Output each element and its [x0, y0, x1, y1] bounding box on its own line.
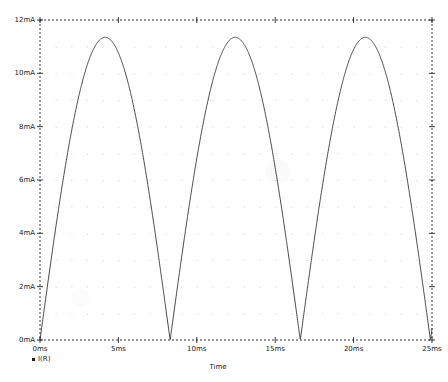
- x-axis-title: Time: [180, 363, 256, 371]
- legend[interactable]: I(R): [32, 355, 50, 363]
- square-marker-icon: [32, 358, 35, 361]
- legend-label-i-r: I(R): [38, 355, 50, 363]
- x-tick-label-20ms: 20ms: [336, 345, 372, 353]
- y-tick-label-8mA: 8mA: [2, 123, 35, 131]
- tick-marks: [37, 17, 435, 343]
- y-tick-label-0mA: 0mA: [2, 336, 35, 344]
- series-i-r-trace: [40, 37, 432, 340]
- y-tick-label-10mA: 10mA: [2, 69, 35, 77]
- y-tick-label-6mA: 6mA: [2, 176, 35, 184]
- grid-dots: [56, 47, 418, 315]
- x-tick-label-15ms: 15ms: [257, 345, 293, 353]
- x-tick-label-0ms: 0ms: [22, 345, 58, 353]
- y-tick-label-4mA: 4mA: [2, 229, 35, 237]
- x-tick-label-5ms: 5ms: [100, 345, 136, 353]
- x-tick-label-25ms: 25ms: [414, 345, 448, 353]
- y-tick-label-12mA: 12mA: [2, 16, 35, 24]
- axis-frame: [40, 20, 432, 340]
- data-trace-group: [40, 37, 432, 340]
- chart-canvas: [0, 0, 448, 382]
- x-tick-label-10ms: 10ms: [179, 345, 215, 353]
- probe-plot-window: 0mA2mA4mA6mA8mA10mA12mA 0ms5ms10ms15ms20…: [0, 0, 448, 382]
- y-tick-label-2mA: 2mA: [2, 283, 35, 291]
